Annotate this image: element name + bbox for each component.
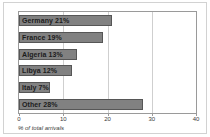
plot-area: Germany 21%France 19%Algeria 13%Libya 12… xyxy=(18,11,197,114)
bar-row: Germany 21% xyxy=(19,15,196,26)
chart-screenshot: Germany 21%France 19%Algeria 13%Libya 12… xyxy=(0,0,210,137)
x-axis-ticks: 010203040 xyxy=(18,114,197,124)
bar-series: Germany 21%France 19%Algeria 13%Libya 12… xyxy=(19,12,196,113)
tick-label: 0 xyxy=(17,116,20,122)
bar-label: France 19% xyxy=(22,32,62,43)
tick-label: 10 xyxy=(60,116,67,122)
figure-frame: Germany 21%France 19%Algeria 13%Libya 12… xyxy=(3,2,207,134)
tick-label: 30 xyxy=(148,116,155,122)
bar-label: Italy 7% xyxy=(22,82,49,93)
bar-label: Algeria 13% xyxy=(22,49,63,60)
bar-row: Italy 7% xyxy=(19,82,196,93)
bar-row: France 19% xyxy=(19,32,196,43)
bar-label: Libya 12% xyxy=(22,65,57,76)
bar-label: Germany 21% xyxy=(22,15,69,26)
bar-label: Other 28% xyxy=(22,99,58,110)
bar-row: Libya 12% xyxy=(19,65,196,76)
tick-label: 40 xyxy=(193,116,200,122)
x-axis-title: % of total arrivals xyxy=(18,125,64,131)
bar-row: Other 28% xyxy=(19,99,196,110)
tick-label: 20 xyxy=(104,116,111,122)
bar-row: Algeria 13% xyxy=(19,49,196,60)
